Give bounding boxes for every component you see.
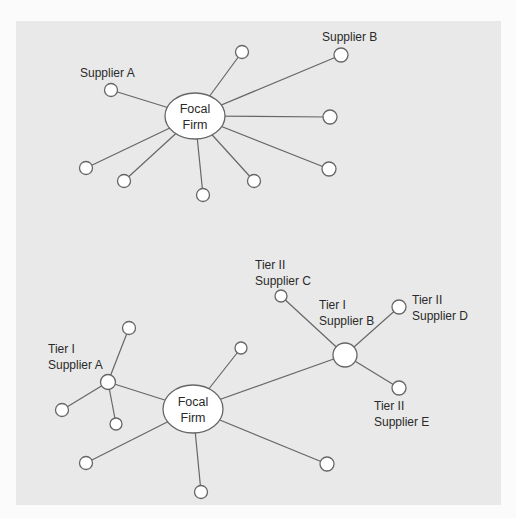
tier2-node — [56, 404, 69, 417]
tier2-supplier-c-node — [275, 290, 287, 302]
tier2-supplier-c-label-line2: Supplier C — [255, 274, 311, 288]
focal-firm-node — [165, 93, 225, 139]
supplier-node — [236, 46, 249, 59]
supplier-node — [322, 162, 336, 176]
supplier-node — [118, 175, 131, 188]
tier2-supplier-e-label-line2: Supplier E — [374, 415, 429, 429]
supplier-a-label: Supplier A — [80, 66, 135, 80]
supplier-node — [197, 189, 210, 202]
supplier-node — [80, 457, 93, 470]
supply-network-diagram: Focal Firm Supplier A Supplier B — [0, 0, 516, 518]
tier2-supplier-d-node — [392, 300, 406, 314]
tier2-node — [123, 322, 136, 335]
tier2-supplier-d-label-line2: Supplier D — [412, 309, 468, 323]
supplier-node — [248, 175, 261, 188]
supplier-node — [320, 457, 334, 471]
tier1-supplier-b-node — [333, 343, 357, 367]
supplier-b-node — [334, 48, 348, 62]
focal-firm-label-line2: Firm — [181, 411, 206, 425]
tier1-supplier-b-label-line1: Tier I — [319, 298, 346, 312]
bottom-network: Focal Firm Tier I Supplier A Tier II Sup… — [48, 258, 468, 499]
tier1-supplier-b-label-line2: Supplier B — [319, 314, 374, 328]
tier1-supplier-a-label-line2: Supplier A — [48, 358, 103, 372]
tier2-supplier-e-label-line1: Tier II — [374, 399, 404, 413]
tier2-supplier-e-node — [392, 381, 406, 395]
tier2-supplier-c-label-line1: Tier II — [255, 258, 285, 272]
tier2-node — [110, 418, 122, 430]
focal-firm-node — [163, 385, 223, 433]
supplier-node — [195, 486, 208, 499]
focal-firm-label-line2: Firm — [183, 118, 208, 132]
supplier-a-node — [105, 84, 118, 97]
focal-firm-label-line1: Focal — [180, 102, 211, 116]
supplier-node — [323, 110, 337, 124]
supplier-node — [235, 342, 247, 354]
focal-firm-label-line1: Focal — [178, 395, 209, 409]
edge — [108, 328, 129, 382]
supplier-b-label: Supplier B — [322, 30, 377, 44]
tier1-supplier-a-node — [101, 375, 116, 390]
supplier-node — [80, 162, 93, 175]
tier2-supplier-d-label-line1: Tier II — [412, 293, 442, 307]
tier1-supplier-a-label-line1: Tier I — [48, 342, 75, 356]
top-network: Focal Firm Supplier A Supplier B — [80, 30, 378, 202]
